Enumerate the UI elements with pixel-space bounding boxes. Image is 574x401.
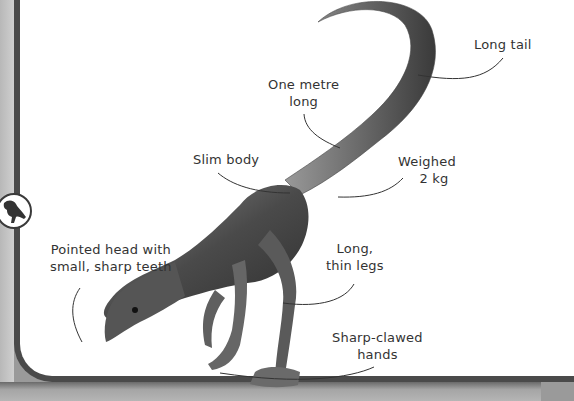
- label-long-tail: Long tail: [474, 36, 532, 53]
- label-slim-body: Slim body: [193, 151, 259, 168]
- dinosaur-eye: [132, 307, 138, 313]
- dinosaur-arm: [203, 290, 225, 348]
- label-one-metre-long: One metre long: [268, 76, 339, 110]
- leader-line-weighed: [338, 178, 403, 197]
- label-weighed: Weighed 2 kg: [398, 153, 456, 187]
- leader-line-pointed-head: [73, 288, 82, 342]
- leader-line-one-metre: [304, 114, 340, 148]
- label-long-thin-legs: Long, thin legs: [326, 240, 384, 274]
- label-pointed-head: Pointed head with small, sharp teeth: [50, 241, 172, 275]
- dinosaur-silhouette-icon: [0, 195, 30, 227]
- label-sharp-clawed-hands: Sharp-clawed hands: [332, 329, 423, 363]
